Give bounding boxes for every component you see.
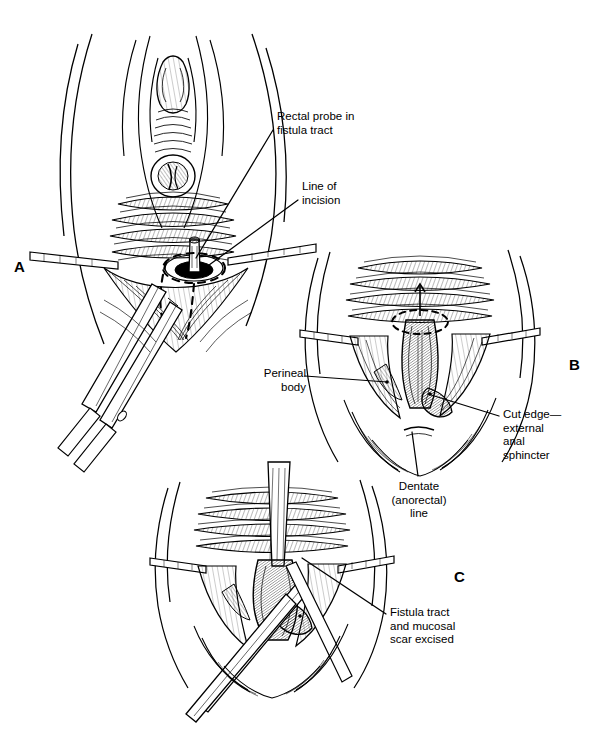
leader-dentate-line bbox=[412, 432, 418, 476]
panel-a-vestibule-striations bbox=[154, 109, 192, 152]
leader-rectal-probe bbox=[196, 130, 273, 258]
panel-letter-b: B bbox=[569, 356, 580, 373]
panel-a-illustration bbox=[30, 34, 316, 472]
panel-letter-a: A bbox=[14, 258, 25, 275]
panel-a-vaginal-orifice bbox=[151, 155, 195, 197]
panel-c-illustration bbox=[150, 462, 394, 722]
panel-c-left-flank bbox=[198, 566, 250, 648]
panel-a-scissors bbox=[58, 284, 182, 472]
panel-a-introitus bbox=[157, 56, 189, 113]
rectal-probe-label: Rectal probe in fistula tract bbox=[277, 110, 354, 137]
surgical-figure: Rectal probe in fistula tract Line of in… bbox=[0, 0, 596, 754]
cut-edge-sphincter-label: Cut edge— external anal sphincter bbox=[503, 408, 561, 462]
panel-a-perineal-folds bbox=[110, 192, 236, 260]
panel-c-scissors bbox=[186, 580, 308, 722]
perineal-body-label: Perineal body bbox=[250, 367, 306, 394]
panel-b-lower-contours bbox=[344, 398, 496, 476]
dentate-line-label: Dentate (anorectal) line bbox=[374, 480, 464, 521]
fistula-excised-label: Fistula tract and mucosal scar excised bbox=[390, 606, 455, 647]
panel-b-dentate-line bbox=[404, 427, 434, 436]
panel-b-lower-hatch bbox=[360, 426, 480, 472]
line-of-incision-label: Line of incision bbox=[302, 180, 340, 207]
panel-letter-c: C bbox=[454, 568, 465, 585]
